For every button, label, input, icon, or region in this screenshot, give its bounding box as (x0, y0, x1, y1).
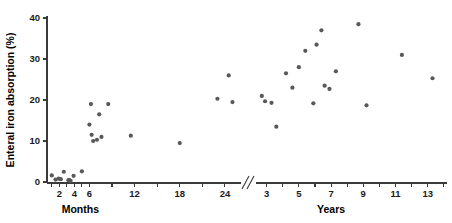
data-point (230, 100, 234, 104)
data-point (80, 169, 84, 173)
data-point (91, 139, 95, 143)
data-point (297, 65, 301, 69)
y-tick-label-0: 0 (35, 176, 40, 187)
x-tick-label-months-2: 2 (57, 188, 62, 199)
data-point (430, 76, 434, 80)
x-axis-title-months: Months (62, 203, 99, 215)
data-points-layer (50, 22, 435, 183)
data-point (68, 179, 72, 183)
x-tick-label-months-18: 18 (174, 188, 185, 199)
data-point (263, 99, 267, 103)
x-tick-label-years-7: 7 (328, 188, 333, 199)
data-point (290, 86, 294, 90)
data-point (95, 138, 99, 142)
y-tick-label-30: 30 (29, 53, 40, 64)
y-tick-label-40: 40 (29, 12, 40, 23)
x-tick-label-months-6: 6 (87, 188, 92, 199)
x-tick-label-years-3: 3 (264, 188, 269, 199)
data-point (178, 141, 182, 145)
data-point (314, 43, 318, 47)
axis-labels-layer: MonthsYears (62, 203, 346, 215)
data-point (227, 73, 231, 77)
data-point (327, 87, 331, 91)
data-point (269, 101, 273, 105)
data-point (303, 49, 307, 53)
x-tick-label-months-24: 24 (220, 188, 231, 199)
data-point (356, 22, 360, 26)
data-point (90, 133, 94, 137)
y-axis-title: Enteral iron absorption (%) (4, 33, 16, 168)
data-point (274, 125, 278, 129)
plot-canvas: 010203040Enteral iron absorption (%) 246… (0, 0, 452, 223)
data-point (106, 102, 110, 106)
data-point (215, 97, 219, 101)
data-point (72, 174, 76, 178)
data-point (364, 103, 368, 107)
scatter-chart-figure: 010203040Enteral iron absorption (%) 246… (0, 0, 452, 223)
data-point (400, 53, 404, 57)
x-axis-title-years: Years (317, 203, 345, 215)
data-point (311, 101, 315, 105)
data-point (129, 134, 133, 138)
x-axis: 24612182435791113 (47, 176, 447, 199)
data-point (50, 173, 54, 177)
data-point (89, 102, 93, 106)
data-point (59, 177, 63, 181)
y-axis: 010203040Enteral iron absorption (%) (4, 12, 47, 187)
y-tick-label-10: 10 (29, 135, 40, 146)
y-tick-label-20: 20 (29, 94, 40, 105)
data-point (284, 71, 288, 75)
x-tick-label-years-5: 5 (296, 188, 302, 199)
data-point (99, 135, 103, 139)
data-point (323, 84, 327, 88)
data-point (319, 28, 323, 32)
data-point (260, 94, 264, 98)
data-point (62, 170, 66, 174)
x-tick-label-years-13: 13 (422, 188, 433, 199)
data-point (87, 123, 91, 127)
data-point (97, 112, 101, 116)
data-point (334, 69, 338, 73)
x-tick-label-years-11: 11 (390, 188, 401, 199)
x-tick-label-years-9: 9 (361, 188, 366, 199)
x-tick-label-months-12: 12 (129, 188, 140, 199)
x-tick-label-months-4: 4 (72, 188, 78, 199)
